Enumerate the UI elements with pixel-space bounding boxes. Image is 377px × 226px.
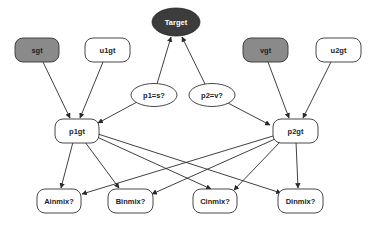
edge-p1gt-to-binmix bbox=[85, 142, 119, 188]
edge-u1gt-to-p1gt bbox=[80, 62, 103, 118]
edge-p1s-to-p1gt bbox=[98, 102, 137, 123]
edge-p2v-to-target bbox=[182, 37, 205, 84]
edge-p2gt-to-cinmix bbox=[234, 142, 280, 190]
node-cinmix-label: Cinmix? bbox=[200, 197, 230, 206]
node-p2gt[interactable]: p2gt bbox=[273, 119, 318, 143]
node-p1-eq-s-label: p1=s? bbox=[143, 91, 165, 100]
node-target[interactable]: Target bbox=[152, 8, 200, 36]
node-u1gt[interactable]: u1gt bbox=[85, 38, 130, 62]
node-target-label: Target bbox=[165, 18, 188, 27]
node-u2gt[interactable]: u2gt bbox=[316, 38, 361, 62]
node-p1gt[interactable]: p1gt bbox=[55, 119, 99, 143]
node-p2gt-label: p2gt bbox=[288, 127, 304, 136]
bayesian-network-diagram: Target sgt u1gt vgt u2gt p1=s? p2=v? p1g… bbox=[0, 0, 377, 226]
node-ainmix-label: Ainmix? bbox=[44, 197, 74, 206]
node-vgt[interactable]: vgt bbox=[243, 38, 288, 62]
edge-p1gt-to-ainmix bbox=[61, 142, 73, 188]
edge-sgt-to-p1gt bbox=[43, 62, 70, 118]
node-vgt-label: vgt bbox=[260, 46, 272, 55]
edge-u2gt-to-p2gt bbox=[303, 62, 331, 118]
edge-p2gt-to-ainmix bbox=[82, 136, 273, 194]
node-dinmix[interactable]: Dinmix? bbox=[278, 189, 323, 213]
edge-p1s-to-target bbox=[157, 37, 171, 84]
node-p2-eq-v-label: p2=v? bbox=[201, 91, 223, 100]
edge-p2v-to-p2gt bbox=[226, 102, 270, 125]
node-cinmix[interactable]: Cinmix? bbox=[193, 189, 237, 213]
node-sgt-label: sgt bbox=[31, 46, 43, 55]
edge-p2gt-to-dinmix bbox=[296, 142, 298, 188]
node-p1-eq-s[interactable]: p1=s? bbox=[131, 84, 177, 107]
node-ainmix[interactable]: Ainmix? bbox=[37, 189, 81, 213]
node-binmix-label: Binmix? bbox=[116, 197, 146, 206]
node-u1gt-label: u1gt bbox=[100, 46, 116, 55]
node-dinmix-label: Dinmix? bbox=[286, 197, 316, 206]
node-u2gt-label: u2gt bbox=[331, 46, 347, 55]
node-sgt[interactable]: sgt bbox=[15, 38, 59, 62]
edges bbox=[43, 37, 331, 194]
node-p1gt-label: p1gt bbox=[69, 127, 85, 136]
edge-p1gt-to-dinmix bbox=[98, 134, 281, 193]
edge-vgt-to-p2gt bbox=[268, 62, 289, 118]
node-binmix[interactable]: Binmix? bbox=[108, 189, 153, 213]
node-p2-eq-v[interactable]: p2=v? bbox=[189, 84, 235, 107]
